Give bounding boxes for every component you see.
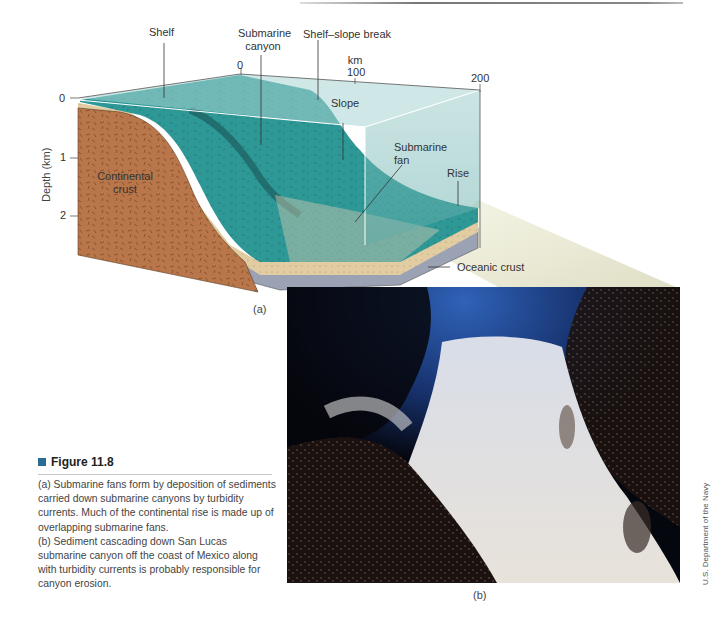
label-continental-crust: Continental crust — [95, 170, 155, 196]
photo-credit: U.S. Department of the Navy — [701, 483, 710, 585]
caption-part-b: (b) Sediment cascading down San Lucas su… — [38, 535, 278, 592]
caption-part-a: (a) Submarine fans form by deposition of… — [38, 478, 278, 535]
label-continental-crust-line2: crust — [95, 183, 155, 196]
label-submarine-canyon-line1: Submarine — [238, 27, 288, 40]
label-submarine-fan-line1: Submarine — [394, 141, 447, 154]
figure-marker-icon — [38, 458, 46, 466]
depth-tick-0: 0 — [59, 92, 65, 105]
label-submarine-canyon-line2: canyon — [238, 40, 288, 53]
figure-divider — [38, 474, 272, 475]
distance-tick-0: 0 — [237, 59, 243, 72]
label-shelf-slope-break: Shelf–slope break — [303, 28, 391, 41]
label-submarine-canyon: Submarine canyon — [238, 27, 288, 53]
depth-axis-title: Depth (km) — [40, 148, 52, 202]
depth-tick-1: 1 — [60, 151, 66, 164]
figure-caption: (a) Submarine fans form by deposition of… — [38, 478, 278, 592]
distance-tick-100: 100 — [347, 66, 365, 79]
label-slope: Slope — [331, 97, 359, 110]
turbidity-photo — [287, 287, 680, 583]
figure-number: Figure 11.8 — [51, 455, 114, 469]
depth-tick-2: 2 — [60, 209, 66, 222]
figure-heading: Figure 11.8 — [38, 455, 114, 469]
label-submarine-fan-line2: fan — [394, 154, 447, 167]
label-continental-crust-line1: Continental — [95, 170, 155, 183]
label-oceanic-crust: Oceanic crust — [457, 261, 524, 274]
panel-a-label: (a) — [253, 303, 266, 315]
panel-b-label: (b) — [473, 589, 486, 601]
label-rise: Rise — [447, 167, 469, 180]
label-shelf: Shelf — [149, 26, 174, 39]
label-submarine-fan: Submarine fan — [394, 141, 447, 167]
distance-tick-200: 200 — [471, 72, 489, 85]
